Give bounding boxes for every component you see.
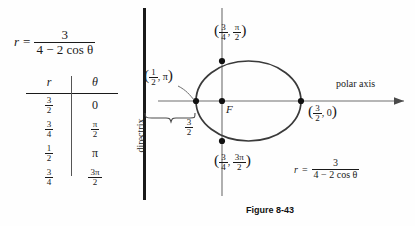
main-equation: r = 3 4 − 2 cos θ [14,28,95,56]
bottom-t-num: 3π [233,153,246,162]
cell-r-num: 1 [45,144,54,153]
equation-fraction: 3 4 − 2 cos θ [34,28,95,56]
equation-numerator: 3 [34,28,95,42]
cell-r-den: 2 [45,153,54,163]
diagram-graphics [130,0,415,226]
table-row: 3 2 0 [26,94,118,118]
inset-equation: r = 3 4 − 2 cos θ [294,158,359,180]
right-r-num: 3 [313,104,322,113]
table-row: 1 2 π [26,142,118,166]
table-cell-theta: π [72,142,118,166]
bottom-r-num: 3 [219,153,228,162]
cell-r-den: 4 [45,177,54,187]
table-vertical-divider [71,76,72,176]
figure-container: r = 3 4 − 2 cos θ r θ 3 2 [0,0,415,226]
polar-diagram: directrix F polar axis ( [130,0,415,226]
cell-r-num: 3 [45,120,54,129]
point-label-left: (12, π) [144,68,173,88]
table-cell-r: 3 4 [26,118,72,142]
cell-r-den: 2 [45,105,54,115]
point-right-vertex [298,98,304,104]
figure-caption: Figure 8-43 [200,205,340,215]
inset-equation-lhs: r [294,164,298,175]
polar-axis-label: polar axis [336,78,375,89]
cell-r-num: 3 [45,96,54,105]
cell-theta-den: 2 [91,129,100,139]
point-label-bottom: (34, 3π2) [214,153,251,173]
top-r-den: 4 [219,32,228,42]
cell-theta-plain: 0 [92,98,98,112]
inset-equation-equals: = [302,164,308,175]
cell-r-num: 3 [45,168,54,177]
point-label-top: (34, π2) [214,23,246,43]
inset-equation-numerator: 3 [312,158,360,169]
left-r-den: 2 [149,77,158,87]
inset-equation-denominator: 4 − 2 cos θ [312,169,360,181]
point-label-right: (32, 0) [308,104,337,124]
brace-den: 2 [185,127,194,137]
inset-equation-fraction: 3 4 − 2 cos θ [312,158,360,180]
cell-theta-plain: π [92,146,98,160]
value-table: r θ 3 2 0 3 4 [26,74,118,190]
cell-theta-num: π [91,120,100,129]
table-cell-theta: 3π 2 [72,166,118,190]
point-top-vertex [219,58,225,64]
cell-theta-den: 2 [88,177,101,187]
cell-theta-num: 3π [88,168,101,177]
table-header-theta: θ [72,74,118,94]
brace-value-label: 3 2 [179,118,199,138]
equation-lhs: r [14,34,19,50]
table-cell-r: 3 4 [26,166,72,190]
point-bottom-vertex [219,138,225,144]
point-focus [219,98,225,104]
polar-axis-arrowhead [394,97,404,105]
table-header-row: r θ [26,74,118,94]
right-r-den: 2 [313,113,322,123]
bottom-t-den: 2 [233,162,246,172]
table-cell-theta: π 2 [72,118,118,142]
leader-line-left-label [178,86,194,100]
table-header-r: r [26,74,72,94]
table-row: 3 4 3π 2 [26,166,118,190]
equation-denominator: 4 − 2 cos θ [34,42,95,57]
focus-label: F [226,103,233,115]
top-t-num: π [233,23,242,32]
table-row: 3 4 π 2 [26,118,118,142]
left-r-num: 1 [149,68,158,77]
cell-r-den: 4 [45,129,54,139]
top-r-num: 3 [219,23,228,32]
brace-num: 3 [185,118,194,127]
top-t-den: 2 [233,32,242,42]
point-left-vertex [193,98,199,104]
table-cell-r: 1 2 [26,142,72,166]
table-cell-r: 3 2 [26,94,72,118]
table-cell-theta: 0 [72,94,118,118]
equation-equals: = [23,34,30,50]
bottom-r-den: 4 [219,162,228,172]
